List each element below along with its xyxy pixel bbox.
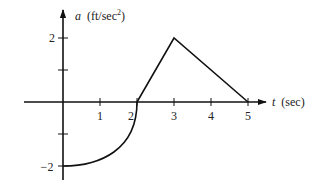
- x-tick-label-4: 4: [208, 109, 214, 123]
- y-axis-label: a (ft/sec2): [75, 8, 125, 23]
- x-tick-label-3: 3: [171, 109, 177, 123]
- x-tick-label-5: 5: [245, 109, 251, 123]
- acceleration-graph: 1 2 3 4 5 2 −2 a (ft/sec2) t (sec): [0, 0, 313, 187]
- x-tick-label-1: 1: [97, 109, 103, 123]
- y-tick-label-neg2: −2: [41, 160, 54, 174]
- x-axis-label: t (sec): [272, 95, 305, 109]
- x-tick-label-2: 2: [128, 109, 134, 123]
- y-tick-label-2: 2: [49, 31, 55, 45]
